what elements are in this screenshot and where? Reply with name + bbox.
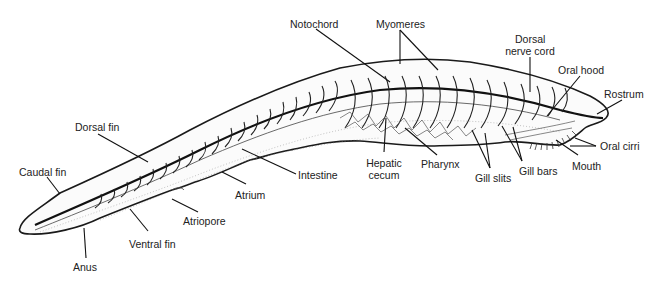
label-oral-cirri: Oral cirri: [600, 140, 640, 152]
label-rostrum: Rostrum: [604, 88, 644, 100]
lancelet-illustration: [0, 0, 659, 285]
label-intestine: Intestine: [298, 169, 338, 181]
label-caudal-fin: Caudal fin: [19, 166, 66, 178]
lancelet-diagram: Notochord Myomeres Dorsal nerve cord Ora…: [0, 0, 659, 285]
label-ventral-fin: Ventral fin: [129, 238, 176, 250]
label-dorsal-nerve-cord-2: nerve cord: [505, 45, 555, 57]
label-oral-hood: Oral hood: [558, 64, 604, 76]
label-myomeres: Myomeres: [376, 18, 425, 30]
label-pharynx: Pharynx: [421, 158, 460, 170]
label-atriopore: Atriopore: [183, 215, 226, 227]
label-gill-bars: Gill bars: [519, 165, 558, 177]
label-notochord: Notochord: [290, 18, 338, 30]
label-dorsal-nerve-cord-1: Dorsal: [515, 33, 545, 45]
label-hepatic-cecum-2: cecum: [364, 169, 404, 181]
label-gill-slits: Gill slits: [475, 172, 511, 184]
label-mouth: Mouth: [572, 160, 601, 172]
label-atrium: Atrium: [235, 189, 265, 201]
label-anus: Anus: [73, 261, 97, 273]
label-hepatic-cecum-1: Hepatic: [364, 157, 404, 169]
label-dorsal-fin: Dorsal fin: [75, 121, 119, 133]
